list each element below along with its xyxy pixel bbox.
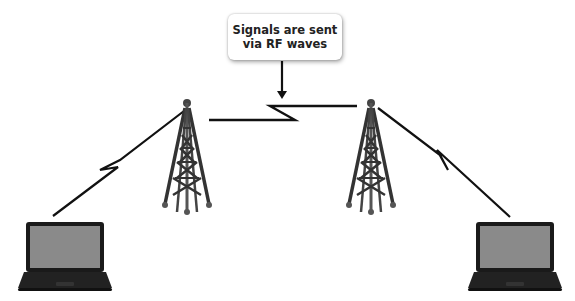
callout-line-1: Signals are sent xyxy=(233,23,338,37)
laptop-left-icon xyxy=(18,222,112,291)
callout-box: Signals are sent via RF waves xyxy=(228,14,342,60)
rf-link-tower-right-to-laptop-right xyxy=(378,108,510,217)
callout-line-2: via RF waves xyxy=(243,37,327,51)
laptop-right-icon xyxy=(468,222,562,291)
radio-tower-left-icon xyxy=(162,99,212,215)
rf-link-tower-left-to-tower-right xyxy=(209,106,357,120)
rf-diagram: Signals are sent via RF waves xyxy=(0,0,575,301)
arrowhead-icon xyxy=(277,91,287,99)
